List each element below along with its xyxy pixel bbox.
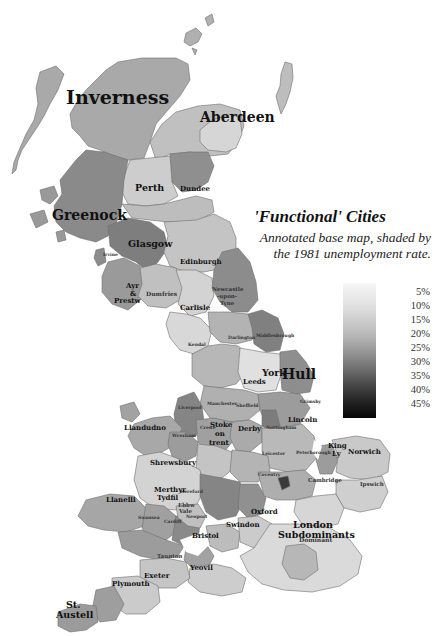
label-sheffield: Sheffield (236, 404, 259, 409)
region-anglesey (120, 402, 140, 422)
label-newcastle-1: Newcastle (212, 287, 243, 293)
label-dumfries: Dumfries (146, 291, 177, 297)
label-perth: Perth (135, 183, 164, 193)
map-title: 'Functional' Cities (254, 207, 386, 227)
label-nottingham: Nottingham (266, 426, 296, 431)
label-leeds: Leeds (243, 378, 266, 385)
label-edinburgh: Edinburgh (180, 258, 222, 265)
label-plymouth: Plymouth (112, 580, 149, 587)
label-kendal: Kendal (188, 343, 206, 348)
legend-tick: 40% (398, 384, 430, 398)
label-bristol: Bristol (192, 532, 219, 539)
legend-tick: 35% (398, 370, 430, 384)
label-inverness: Inverness (66, 88, 169, 107)
label-kings-lynn-2: Ly (332, 450, 341, 457)
label-merthyr-1: Merthyr (154, 486, 186, 493)
label-peterborough: Peterborough (296, 451, 331, 456)
label-cardiff: Cardiff (164, 520, 181, 525)
label-newcastle-3: Tyne (220, 301, 234, 307)
region-orkney (184, 14, 214, 55)
legend-tick: 5% (398, 286, 430, 300)
label-swindon: Swindon (226, 521, 259, 528)
label-carlisle: Carlisle (180, 304, 210, 311)
legend-tick: 15% (398, 314, 430, 328)
label-aberdeen: Aberdeen (200, 110, 275, 124)
label-st-austell-2: Austell (56, 610, 93, 620)
region-lincoln (262, 424, 318, 472)
label-glasgow: Glasgow (128, 239, 172, 249)
label-shrewsbury: Shrewsbury (150, 459, 196, 466)
label-liverpool: Liverpool (178, 406, 202, 411)
label-ayr-3: Prestw (114, 297, 141, 304)
label-wrexham: Wrexham (172, 434, 196, 439)
legend-tick: 45% (398, 398, 430, 412)
legend-tick: 20% (398, 328, 430, 342)
label-lincoln: Lincoln (288, 416, 317, 423)
label-exeter: Exeter (144, 572, 169, 579)
label-hull: Hull (282, 367, 316, 381)
label-middlesbrough: Middlesbrough (256, 334, 294, 339)
legend-tick: 25% (398, 342, 430, 356)
label-ipswich: Ipswich (360, 482, 384, 488)
label-coventry: Coventry (258, 473, 280, 478)
label-newport: Newport (186, 515, 207, 520)
label-llanelli: Llanelli (106, 496, 136, 503)
region-shetland (276, 62, 293, 114)
label-llandudno: Llandudno (124, 424, 166, 431)
label-swansea: Swansea (138, 516, 160, 521)
region-stoke (196, 444, 234, 478)
label-newcastle-2: -upon- (217, 294, 237, 300)
legend-gradient-bar (343, 283, 376, 418)
label-manchester: Manchester (207, 402, 237, 407)
label-stoke-2: on (215, 430, 225, 437)
region-middlesbrough (248, 310, 284, 352)
label-leicester: Leicester (262, 452, 285, 457)
legend-ticks: 5% 10% 15% 20% 25% 30% 35% 40% 45% (398, 286, 430, 412)
label-merthyr-2: Tydfil (157, 494, 178, 501)
label-london-dominant: Dominant (299, 537, 332, 543)
label-stoke-3: trent (209, 439, 229, 446)
label-kings-lynn-1: King (328, 442, 347, 449)
label-grimsby: Grimsby (300, 400, 321, 405)
label-oxford: Oxford (251, 508, 278, 515)
label-dundee: Dundee (180, 185, 210, 192)
legend-tick: 10% (398, 300, 430, 314)
label-cambridge: Cambridge (308, 478, 342, 484)
label-norwich: Norwich (348, 448, 381, 455)
label-ayr-1: Ayr (126, 282, 139, 289)
legend-tick: 30% (398, 356, 430, 370)
label-darlington: Darlington (228, 336, 255, 341)
label-derby: Derby (238, 425, 261, 432)
label-irvine: Irvine (103, 253, 118, 258)
region-perth (122, 156, 178, 206)
region-outer-hebrides (12, 66, 64, 174)
label-yeovil: Yeovil (190, 564, 213, 571)
label-greenock: Greenock (52, 208, 127, 222)
label-taunton: Taunton (157, 554, 182, 560)
map-subtitle: Annotated base map, shaded by the 1981 u… (241, 230, 431, 262)
label-stoke-1: Stoke (210, 421, 232, 428)
